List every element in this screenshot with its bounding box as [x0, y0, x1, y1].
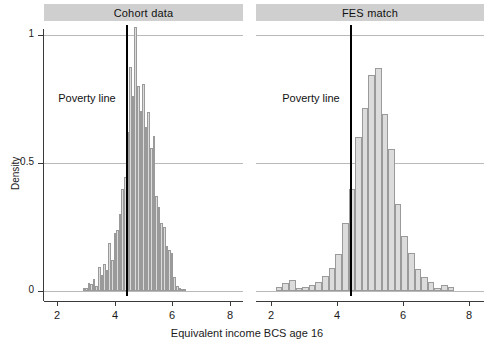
poverty-line-cohort-data	[126, 25, 127, 296]
histogram-bar	[342, 223, 349, 291]
x-axis-tick	[115, 301, 116, 306]
histogram-bar	[401, 236, 408, 291]
panel-header-cohort-data-label: Cohort data	[114, 7, 174, 19]
histogram-bar	[415, 269, 422, 291]
x-axis-tick-label: 6	[157, 309, 187, 321]
x-axis-title: Equivalent income BCS age 16	[0, 327, 494, 339]
histogram-bar	[322, 276, 329, 291]
poverty-line-fes-match	[350, 25, 351, 296]
x-axis-tick-label: 4	[100, 309, 130, 321]
panel-header-cohort-data: Cohort data	[44, 4, 243, 21]
histogram-bar	[335, 254, 342, 291]
y-axis-tick-label: 1	[2, 28, 34, 39]
x-axis-tick-label: 8	[454, 309, 484, 321]
figure-container: Cohort data FES match Poverty line Pover…	[0, 0, 494, 343]
histogram-bar	[362, 108, 369, 291]
histogram-bar	[408, 253, 415, 291]
histogram-bar	[309, 285, 316, 291]
panel-header-fes-match: FES match	[256, 4, 484, 21]
y-axis-tick	[38, 35, 43, 36]
histogram-bar	[315, 282, 322, 291]
histogram-bar	[388, 149, 395, 291]
x-axis-tick-label: 8	[215, 309, 245, 321]
x-axis-tick	[403, 301, 404, 306]
x-axis-tick	[469, 301, 470, 306]
histogram-bar	[428, 282, 435, 291]
x-axis-tick	[337, 301, 338, 306]
histogram-bar	[282, 283, 289, 291]
histogram-bar	[382, 114, 389, 291]
histogram-bar	[421, 277, 428, 291]
poverty-line-label-fes-match: Poverty line	[282, 92, 339, 104]
y-axis-tick	[38, 291, 43, 292]
x-axis-line-left	[44, 301, 243, 302]
histogram-bar	[184, 289, 187, 291]
histogram-bar	[329, 268, 336, 291]
histogram-bar	[441, 285, 448, 291]
y-axis-line	[43, 29, 44, 301]
y-axis-tick-label: 0.5	[2, 156, 34, 167]
x-axis-tick-label: 4	[322, 309, 352, 321]
histogram-bar	[395, 204, 402, 291]
x-axis-tick	[271, 301, 272, 306]
plot-panel-cohort-data	[44, 24, 243, 296]
x-axis-line-right	[256, 301, 484, 302]
histogram-bar	[302, 287, 309, 291]
poverty-line-label-cohort-data: Poverty line	[58, 92, 115, 104]
histogram-bar	[368, 75, 375, 291]
histogram-bar	[448, 287, 455, 291]
plot-panel-fes-match	[256, 24, 484, 296]
y-axis-tick-label: 0	[2, 284, 34, 295]
panel-header-fes-match-label: FES match	[342, 7, 398, 19]
y-axis-tick	[38, 163, 43, 164]
histogram-bar	[434, 288, 441, 291]
histogram-bar	[276, 287, 283, 291]
x-axis-tick-label: 2	[256, 309, 286, 321]
histogram-bar	[296, 288, 303, 291]
histogram-bar	[355, 137, 362, 291]
x-axis-tick-label: 6	[388, 309, 418, 321]
histogram-bar	[289, 280, 296, 291]
x-axis-tick	[172, 301, 173, 306]
histogram-bar	[375, 68, 382, 291]
x-axis-tick-label: 2	[42, 309, 72, 321]
x-axis-tick	[230, 301, 231, 306]
x-axis-tick	[57, 301, 58, 306]
